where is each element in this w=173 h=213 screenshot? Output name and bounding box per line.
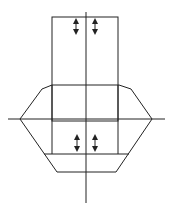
diagram-shapes (8, 12, 165, 203)
diagram-canvas (0, 0, 173, 213)
top-rectangle (52, 17, 118, 121)
